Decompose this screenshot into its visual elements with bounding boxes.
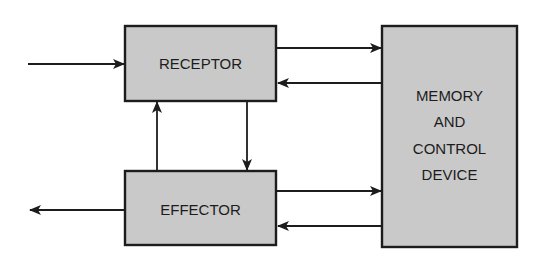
- block-diagram: RECEPTOR EFFECTOR MEMORY AND CONTROL DEV…: [0, 0, 547, 264]
- receptor-node: RECEPTOR: [125, 26, 276, 101]
- memory-label-line-2: AND: [434, 113, 466, 130]
- memory-label-line-3: CONTROL: [413, 140, 486, 157]
- effector-node: EFFECTOR: [125, 171, 276, 245]
- memory-control-node: MEMORY AND CONTROL DEVICE: [382, 26, 517, 247]
- effector-label: EFFECTOR: [160, 201, 241, 218]
- receptor-label: RECEPTOR: [159, 55, 242, 72]
- memory-control-box: [382, 26, 517, 247]
- memory-label-line-1: MEMORY: [416, 87, 483, 104]
- memory-label-line-4: DEVICE: [422, 166, 478, 183]
